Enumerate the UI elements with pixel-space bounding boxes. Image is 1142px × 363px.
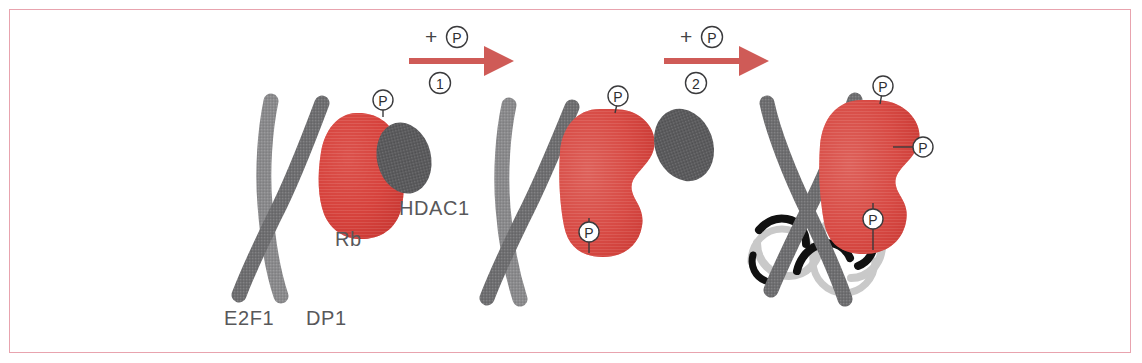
stage-2-complex: P P (487, 86, 655, 299)
figure-root: P P P (0, 0, 1142, 363)
hdac1-label: HDAC1 (399, 197, 470, 220)
rb-protein-stage3-texture (819, 100, 919, 254)
plus-sign: + (680, 25, 692, 48)
phosphate-label: P (707, 30, 716, 46)
phosphate-label: P (868, 212, 877, 228)
e2f1-label: E2F1 (224, 307, 274, 330)
step-number-label: 2 (692, 76, 700, 92)
dp1-label: DP1 (306, 307, 347, 330)
phosphate-label: P (584, 225, 593, 241)
diagram-canvas: P P P (0, 0, 1142, 363)
phosphate-group-stage1-1: P (373, 90, 393, 117)
rb-label: Rb (335, 228, 362, 251)
arrow-1-plus-phosphate: + P (425, 25, 468, 48)
phosphate-label: P (878, 79, 887, 95)
phosphate-group-stage3-1: P (873, 76, 893, 104)
plus-sign: + (425, 25, 437, 48)
step-number-label: 1 (436, 76, 444, 92)
hdac1-protein-released (644, 100, 724, 189)
arrow-2-step-number: 2 (686, 73, 707, 94)
rb-protein-stage2-texture (559, 109, 654, 257)
arrow-2-plus-phosphate: + P (680, 25, 723, 48)
phosphate-label: P (918, 140, 927, 156)
phosphate-label: P (378, 93, 387, 109)
phosphate-label: P (452, 30, 461, 46)
stage-3-complex: P P P (751, 76, 933, 299)
arrow-1-step-number: 1 (430, 73, 451, 94)
stage-1-complex: P (239, 90, 439, 296)
phosphate-label: P (613, 89, 622, 105)
